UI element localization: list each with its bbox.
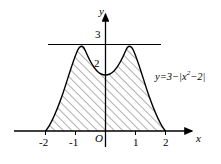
equation-suffix: −2|	[190, 71, 205, 82]
x-axis-label: x	[196, 133, 201, 144]
y-tick-label-2: 2	[94, 58, 100, 69]
y-tick-label-3: 3	[95, 29, 101, 40]
origin-label: O	[95, 133, 103, 144]
x-tick-label-minus1: -1	[69, 137, 78, 148]
math-figure: y x O 3 2 -2 -1 1 2 y=3−|x2−2|	[0, 0, 221, 164]
plot-canvas	[0, 0, 221, 164]
x-tick-label-1: 1	[133, 137, 139, 148]
x-tick-label-2: 2	[163, 137, 169, 148]
equation-prefix: y=3−|x	[155, 71, 187, 82]
x-tick-label-minus2: -2	[39, 137, 48, 148]
y-axis-label: y	[99, 6, 104, 17]
curve-equation-label: y=3−|x2−2|	[155, 70, 205, 82]
